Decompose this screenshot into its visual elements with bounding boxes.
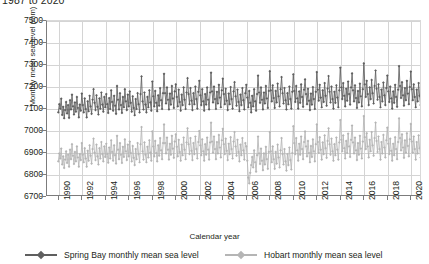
data-point-marker: [349, 156, 352, 159]
data-point-marker: [161, 108, 164, 111]
data-point-marker: [412, 83, 415, 86]
data-point-marker: [339, 66, 342, 69]
data-point-marker: [380, 141, 383, 144]
data-point-marker: [396, 105, 399, 108]
data-point-marker: [219, 96, 222, 99]
data-point-marker: [113, 144, 116, 147]
data-point-marker: [376, 151, 379, 154]
data-point-marker: [179, 159, 182, 162]
data-point-marker: [319, 148, 322, 151]
data-point-marker: [151, 80, 154, 83]
data-point-marker: [377, 83, 380, 86]
data-point-marker: [92, 88, 95, 91]
legend-item-spring-bay[interactable]: Spring Bay monthly mean sea level: [25, 248, 199, 262]
data-point-marker: [225, 99, 228, 102]
data-point-marker: [189, 137, 192, 140]
data-point-marker: [362, 62, 365, 65]
x-tick-label: 2014: [344, 181, 354, 200]
data-point-marker: [266, 158, 269, 161]
data-point-marker: [207, 148, 210, 151]
data-point-marker: [343, 94, 346, 97]
data-point-marker: [233, 81, 236, 84]
data-point-marker: [299, 153, 302, 156]
data-point-marker: [166, 136, 169, 139]
data-point-marker: [263, 91, 266, 94]
data-point-marker: [180, 143, 183, 146]
data-point-marker: [277, 95, 280, 98]
data-point-marker: [375, 140, 378, 143]
data-point-marker: [266, 167, 269, 170]
data-point-marker: [255, 109, 258, 112]
data-point-marker: [302, 158, 305, 161]
data-point-marker: [110, 89, 113, 92]
data-point-marker: [66, 112, 69, 115]
data-point-marker: [86, 149, 89, 152]
data-point-marker: [261, 159, 264, 162]
data-point-marker: [76, 145, 79, 148]
x-tick-label: 1998: [156, 181, 166, 200]
data-point-marker: [305, 145, 308, 148]
data-point-marker: [392, 90, 395, 93]
data-point-marker: [356, 107, 359, 110]
data-point-marker: [348, 145, 351, 148]
data-point-marker: [74, 151, 77, 154]
data-point-marker: [295, 137, 298, 140]
data-point-marker: [100, 91, 103, 94]
data-point-marker: [328, 143, 331, 146]
data-point-marker: [304, 78, 307, 81]
data-point-marker: [228, 103, 231, 106]
data-point-marker: [86, 100, 89, 103]
data-point-marker: [199, 144, 202, 147]
chart-root: 1987 to 2020 Monthly mean sea level (mm)…: [0, 0, 429, 264]
data-point-marker: [104, 156, 107, 159]
data-point-marker: [243, 158, 246, 161]
data-point-marker: [88, 94, 91, 97]
data-point-marker: [306, 155, 309, 158]
x-tick-mark: [316, 196, 317, 200]
data-point-marker: [255, 170, 258, 173]
data-point-marker: [260, 147, 263, 150]
data-point-marker: [97, 113, 100, 116]
x-tick-label: 2010: [297, 181, 307, 200]
data-point-marker: [157, 144, 160, 147]
data-point-marker: [208, 108, 211, 111]
data-point-marker: [90, 162, 93, 165]
data-point-marker: [373, 85, 376, 88]
data-point-marker: [194, 85, 197, 88]
data-point-marker: [73, 163, 76, 166]
data-point-marker: [142, 108, 145, 111]
data-point-marker: [125, 109, 128, 112]
data-point-marker: [140, 126, 143, 129]
legend-item-hobart[interactable]: Hobart monthly mean sea level: [225, 248, 382, 262]
data-point-marker: [99, 157, 102, 160]
x-tick-label: 2000: [179, 181, 189, 200]
data-point-marker: [186, 77, 189, 80]
data-point-marker: [414, 106, 417, 109]
data-point-marker: [323, 82, 326, 85]
data-point-marker: [187, 93, 190, 96]
data-point-marker: [195, 148, 198, 151]
data-point-marker: [236, 88, 239, 91]
data-point-marker: [220, 139, 223, 142]
data-point-marker: [385, 139, 388, 142]
y-tick-mark: [40, 174, 46, 175]
data-point-marker: [234, 145, 237, 148]
data-point-marker: [200, 154, 203, 157]
data-point-marker: [219, 106, 222, 109]
data-point-marker: [165, 102, 168, 105]
data-point-marker: [57, 160, 60, 163]
data-point-marker: [397, 141, 400, 144]
data-point-marker: [61, 114, 64, 117]
data-point-marker: [297, 159, 300, 162]
x-tick-label: 1992: [85, 181, 95, 200]
data-point-marker: [297, 107, 300, 110]
data-point-marker: [204, 93, 207, 96]
data-point-marker: [147, 106, 150, 109]
data-point-marker: [79, 159, 82, 162]
data-point-marker: [103, 145, 106, 148]
data-point-marker: [138, 111, 141, 114]
data-point-marker: [318, 83, 321, 86]
data-point-marker: [347, 132, 350, 135]
data-point-marker: [73, 113, 76, 116]
data-point-marker: [136, 142, 139, 145]
